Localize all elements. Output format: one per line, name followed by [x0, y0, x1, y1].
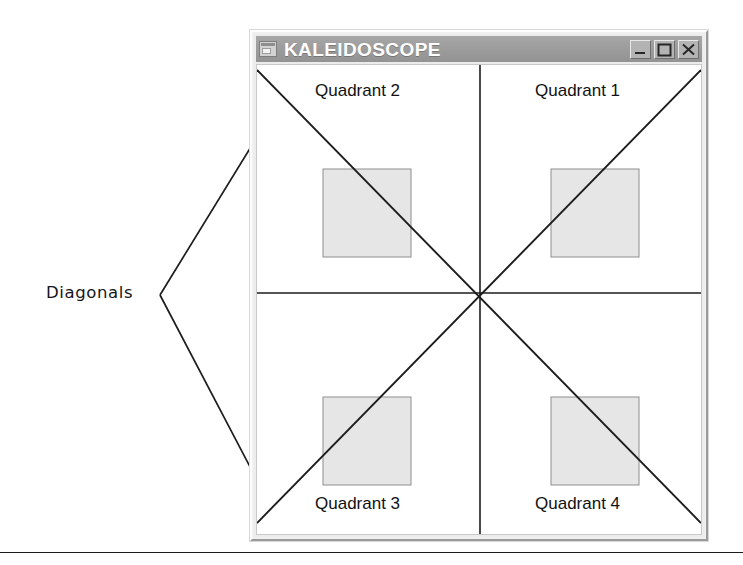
- bottom-horizontal-rule: [0, 552, 743, 553]
- arrow-to-lower-diagonal: [160, 295, 259, 484]
- quadrant-1-square: [551, 169, 639, 257]
- minimize-icon: [631, 41, 650, 58]
- canvas-graphics: [257, 65, 701, 534]
- quadrant-4-square: [551, 397, 639, 485]
- minimize-button[interactable]: [630, 40, 651, 59]
- close-icon: [679, 41, 698, 58]
- quadrant-3-label: Quadrant 3: [315, 494, 400, 514]
- window-app-icon[interactable]: [259, 41, 277, 57]
- window-titlebar[interactable]: KALEIDOSCOPE: [256, 36, 702, 62]
- quadrant-4-label: Quadrant 4: [535, 494, 620, 514]
- window-controls: [630, 40, 699, 59]
- close-button[interactable]: [678, 40, 699, 59]
- window-title: KALEIDOSCOPE: [284, 40, 630, 59]
- quadrant-1-label: Quadrant 1: [535, 81, 620, 101]
- maximize-button[interactable]: [654, 40, 675, 59]
- maximize-icon: [655, 41, 674, 58]
- kaleidoscope-window: KALEIDOSCOPE: [250, 30, 708, 541]
- quadrant-2-label: Quadrant 2: [315, 81, 400, 101]
- kaleidoscope-figure: Diagonals KALEIDOSCOPE: [0, 0, 743, 565]
- kaleidoscope-canvas[interactable]: Quadrant 2 Quadrant 1 Quadrant 3 Quadran…: [256, 64, 702, 535]
